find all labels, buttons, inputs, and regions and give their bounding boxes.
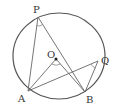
segment-PA	[28, 17, 38, 91]
angle-mark-Q	[91, 64, 96, 68]
label-A: A	[17, 93, 26, 104]
angle-mark-P	[37, 25, 43, 27]
circle	[13, 13, 105, 99]
circle-diagram: P Q A B O	[0, 0, 122, 107]
angle-mark-O	[52, 64, 61, 65]
segment-PB	[38, 17, 85, 92]
label-O: O	[47, 49, 55, 60]
label-P: P	[33, 4, 40, 15]
label-B: B	[86, 94, 93, 105]
segment-OA	[28, 59, 56, 91]
label-Q: Q	[101, 55, 109, 66]
